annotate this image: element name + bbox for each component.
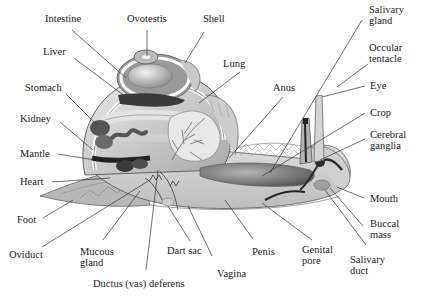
- label-kidney: Kidney: [20, 113, 51, 124]
- label-foot: Foot: [17, 214, 36, 225]
- label-penis: Penis: [252, 246, 275, 257]
- label-dart-sac: Dart sac: [167, 245, 202, 256]
- label-mucous-gland: Mucous gland: [80, 246, 114, 268]
- label-heart: Heart: [20, 176, 43, 187]
- label-cerebral-ganglia: Cerebral ganglia: [370, 129, 406, 151]
- label-intestine: Intestine: [45, 13, 81, 24]
- label-shell: Shell: [203, 13, 225, 24]
- label-vagina: Vagina: [217, 268, 246, 279]
- label-salivary-duct: Salivary duct: [350, 254, 385, 276]
- label-stomach: Stomach: [25, 82, 62, 93]
- snail-anatomy-diagram: Intestine Ovotestis Shell Salivary gland…: [0, 0, 426, 296]
- label-lung: Lung: [223, 58, 245, 69]
- label-oviduct: Oviduct: [9, 249, 43, 260]
- label-eye: Eye: [370, 80, 386, 91]
- label-salivary-gland: Salivary gland: [369, 4, 404, 26]
- label-anus: Anus: [273, 82, 295, 93]
- label-crop: Crop: [370, 107, 391, 118]
- label-liver: Liver: [43, 46, 66, 57]
- label-buccal-mass: Buccal mass: [370, 218, 399, 240]
- label-ductus-deferens: Ductus (vas) deferens: [93, 278, 185, 289]
- label-genital-pore: Genital pore: [302, 244, 333, 266]
- label-occular-tentacle: Occular tentacle: [369, 42, 402, 64]
- label-mantle: Mantle: [20, 148, 50, 159]
- label-ovotestis: Ovotestis: [127, 13, 167, 24]
- snail-illustration: [0, 0, 426, 296]
- label-mouth: Mouth: [370, 193, 398, 204]
